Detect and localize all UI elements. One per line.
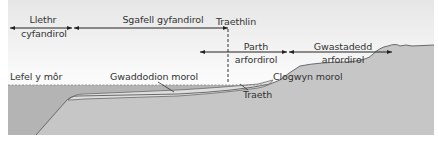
sea-level-label: Lefel y môr [10, 71, 62, 83]
shoreline-label: Traethlin [210, 16, 262, 28]
sea-cliff-label: Clogwyn morol [273, 71, 342, 83]
coastal-zone-label-line2: arfordirol [228, 54, 284, 66]
marine-sediments-label: Gwaddodion morol [110, 71, 198, 83]
coastal-zone-label-line1: Parth [231, 41, 281, 53]
beach-label: Traeth [243, 89, 272, 101]
coastal-profile-diagram: Llethr cyfandirol Sgafell gyfandirol Tra… [8, 0, 434, 135]
continental-slope-label-line2: cyfandirol [16, 28, 72, 40]
coastal-plain-label-line2: arfordirol [313, 54, 373, 66]
continental-slope-label-line1: Llethr [18, 14, 68, 26]
continental-shelf-label: Sgafell gyfandirol [108, 14, 218, 26]
coastal-plain-label-line1: Gwastadedd [308, 41, 378, 53]
